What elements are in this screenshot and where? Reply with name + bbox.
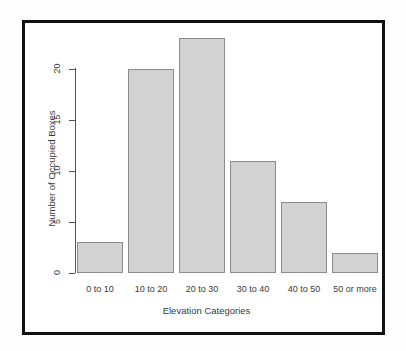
y-axis-tick-label: 5 xyxy=(53,212,62,232)
bar-rect xyxy=(179,38,225,273)
bar-rect xyxy=(230,161,276,273)
bar-rect xyxy=(128,69,174,273)
bar-rect xyxy=(77,242,123,273)
x-axis-title: Elevation Categories xyxy=(25,305,388,316)
y-axis-tick-label: 15 xyxy=(53,110,62,130)
y-axis-tick xyxy=(69,222,75,223)
y-axis-tick xyxy=(69,273,75,274)
y-axis-tick-label: 10 xyxy=(53,161,62,181)
y-axis-tick-label: 20 xyxy=(53,59,62,79)
figure-frame: Number of Occupied Boxes 05101520 0 to 1… xyxy=(22,20,385,335)
figure-root: Number of Occupied Boxes 05101520 0 to 1… xyxy=(0,0,406,351)
bar-rect xyxy=(332,253,378,273)
bar-rect xyxy=(281,202,327,273)
y-axis-tick-label: 0 xyxy=(53,263,62,283)
y-axis-tick xyxy=(69,69,75,70)
x-axis-tick-label: 50 or more xyxy=(324,284,386,294)
y-axis-line xyxy=(75,68,76,273)
y-axis-tick xyxy=(69,171,75,172)
plot-area: Number of Occupied Boxes 05101520 0 to 1… xyxy=(25,23,388,338)
bars-layer xyxy=(77,68,383,273)
y-axis-tick xyxy=(69,120,75,121)
